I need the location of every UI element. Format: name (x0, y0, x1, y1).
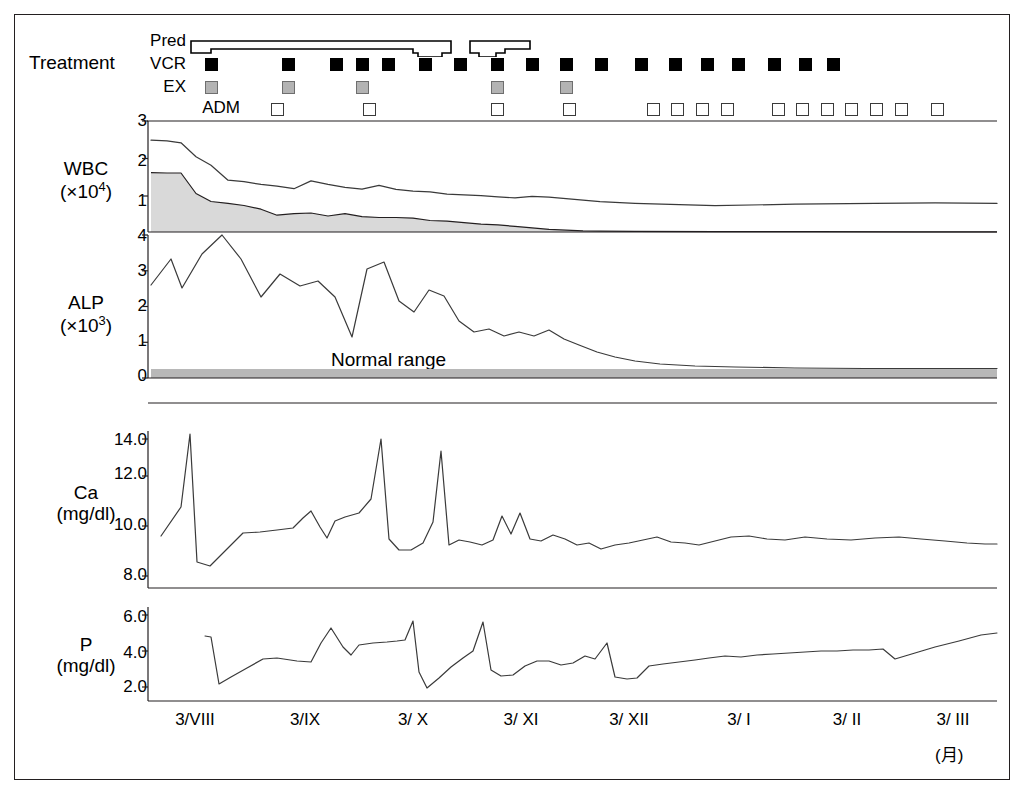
adm-marker (772, 103, 785, 116)
adm-marker (931, 103, 944, 116)
vcr-marker (701, 58, 714, 71)
x-tick-label-3: 3/ XI (481, 710, 561, 730)
vcr-marker (282, 58, 295, 71)
adm-marker (671, 103, 684, 116)
treatment-row-label-vcr: VCR (111, 54, 186, 74)
vcr-marker (419, 58, 432, 71)
treatment-row-label-adm: ADM (165, 98, 240, 118)
vcr-marker (827, 58, 840, 71)
ex-marker (282, 81, 295, 94)
x-tick-label-1: 3/IX (265, 710, 345, 730)
adm-marker (895, 103, 908, 116)
vcr-marker (382, 58, 395, 71)
adm-marker (271, 103, 284, 116)
vcr-marker (635, 58, 648, 71)
wbc-chart (15, 119, 1011, 237)
vcr-marker (454, 58, 467, 71)
chart-page: Treatment Pred VCR EX ADM WBC (×104) 3 2… (0, 0, 1024, 795)
vcr-marker (595, 58, 608, 71)
alp-ca-separator (15, 401, 1011, 405)
vcr-marker (799, 58, 812, 71)
x-tick-label-7: 3/ III (913, 710, 993, 730)
x-tick-label-6: 3/ II (807, 710, 887, 730)
adm-marker (696, 103, 709, 116)
alp-chart (15, 233, 1011, 393)
x-tick-label-2: 3/ X (373, 710, 453, 730)
x-tick-label-4: 3/ XII (589, 710, 669, 730)
chart-frame: Treatment Pred VCR EX ADM WBC (×104) 3 2… (14, 14, 1010, 780)
treatment-row-label-ex: EX (111, 77, 186, 97)
ca-chart (15, 419, 1011, 593)
vcr-marker (330, 58, 343, 71)
adm-marker (647, 103, 660, 116)
ex-marker (205, 81, 218, 94)
adm-marker (491, 103, 504, 116)
p-chart (15, 593, 1011, 709)
vcr-marker (669, 58, 682, 71)
adm-marker (563, 103, 576, 116)
vcr-marker (732, 58, 745, 71)
vcr-marker (768, 58, 781, 71)
adm-marker (721, 103, 734, 116)
ex-marker (560, 81, 573, 94)
adm-marker (363, 103, 376, 116)
x-tick-label-0: 3/VIII (155, 710, 235, 730)
pred-step-chart (15, 25, 1011, 57)
x-tick-label-5: 3/ I (699, 710, 779, 730)
adm-marker (796, 103, 809, 116)
vcr-marker (526, 58, 539, 71)
vcr-marker (356, 58, 369, 71)
ex-marker (356, 81, 369, 94)
adm-marker (870, 103, 883, 116)
x-axis-unit-note: (月) (935, 741, 963, 766)
adm-marker (845, 103, 858, 116)
vcr-marker (560, 58, 573, 71)
vcr-marker (205, 58, 218, 71)
vcr-marker (491, 58, 504, 71)
adm-marker (821, 103, 834, 116)
ex-marker (491, 81, 504, 94)
